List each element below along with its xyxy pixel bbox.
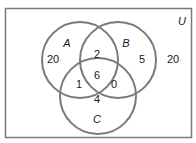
- universe-label: U: [178, 16, 186, 27]
- region-a-and-b-only: 2: [94, 49, 100, 60]
- set-a-label: A: [63, 38, 70, 49]
- set-c-label: C: [93, 114, 101, 125]
- venn-diagram: U A B C 20 2 5 20 6 1 0 4: [0, 0, 196, 143]
- region-outside: 20: [167, 54, 179, 65]
- set-b-label: B: [122, 38, 129, 49]
- region-b-and-c-only: 0: [111, 79, 117, 90]
- region-a-only: 20: [47, 54, 59, 65]
- region-c-only: 4: [94, 94, 100, 105]
- region-a-b-c: 6: [94, 70, 100, 81]
- region-a-and-c-only: 1: [76, 79, 82, 90]
- region-b-only: 5: [139, 54, 145, 65]
